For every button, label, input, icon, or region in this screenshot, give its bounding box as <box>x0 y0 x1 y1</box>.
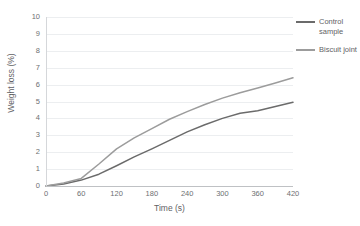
x-tick-label: 120 <box>102 190 132 198</box>
x-axis-title: Time (s) <box>46 203 293 213</box>
y-tick-label: 4 <box>18 114 40 122</box>
y-tick-label: 1 <box>18 165 40 173</box>
y-tick-label: 0 <box>18 182 40 190</box>
x-tick-label: 60 <box>66 190 96 198</box>
series-lines <box>46 17 293 186</box>
y-tick-label: 3 <box>18 131 40 139</box>
y-tick-label: 7 <box>18 64 40 72</box>
x-tick-label: 420 <box>278 190 308 198</box>
plot-area <box>46 17 293 186</box>
x-axis-line <box>46 186 293 187</box>
line-chart: 012345678910 060120180240300360420 Weigh… <box>0 0 360 226</box>
series-line <box>46 78 293 186</box>
legend-label: Biscuit joint <box>319 45 357 55</box>
y-axis-title: Weight loss (%) <box>6 28 16 138</box>
y-tick-label: 8 <box>18 47 40 55</box>
y-axis-line <box>46 17 47 186</box>
y-tick-label: 10 <box>18 13 40 21</box>
x-tick-label: 0 <box>31 190 61 198</box>
x-tick-label: 240 <box>172 190 202 198</box>
y-tick-label: 2 <box>18 148 40 156</box>
legend-item[interactable]: Control sample <box>296 17 360 36</box>
legend-label: Control sample <box>319 17 359 36</box>
y-tick-label: 9 <box>18 30 40 38</box>
legend-swatch-icon <box>296 21 315 23</box>
legend: Control sampleBiscuit joint <box>296 17 360 64</box>
y-tick-label: 5 <box>18 98 40 106</box>
series-line <box>46 102 293 186</box>
y-tick-label: 6 <box>18 81 40 89</box>
legend-swatch-icon <box>296 49 315 51</box>
x-tick-label: 300 <box>207 190 237 198</box>
x-tick-label: 180 <box>137 190 167 198</box>
x-tick-label: 360 <box>243 190 273 198</box>
legend-item[interactable]: Biscuit joint <box>296 45 360 55</box>
